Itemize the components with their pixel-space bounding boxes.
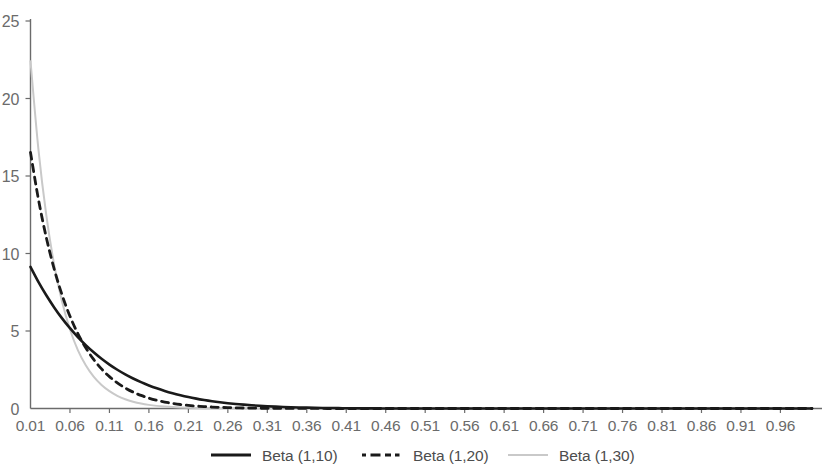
beta-distribution-chart: 0510152025 0.010.060.110.160.210.260.310… [0, 0, 824, 467]
y-axis-tick-label: 20 [2, 91, 20, 108]
legend-label-3: Beta (1,30) [559, 447, 635, 464]
series-line-beta-1-10 [31, 267, 813, 409]
chart-legend: Beta (1,10)Beta (1,20)Beta (1,30) [211, 447, 635, 464]
y-axis-tick-label: 15 [2, 168, 20, 185]
chart-canvas: 0510152025 0.010.060.110.160.210.260.310… [0, 0, 824, 467]
legend-label-2: Beta (1,20) [413, 447, 489, 464]
axis-ticks [26, 21, 781, 413]
x-axis-tick-labels: 0.010.060.110.160.210.260.310.360.410.46… [16, 417, 795, 434]
series-line-beta-1-20 [31, 152, 813, 408]
x-axis-tick-label: 0.66 [529, 417, 558, 434]
y-axis-tick-label: 0 [11, 401, 20, 418]
y-axis-tick-label: 5 [11, 323, 20, 340]
axes [31, 19, 823, 409]
x-axis-tick-label: 0.21 [174, 417, 203, 434]
legend-label-1: Beta (1,10) [262, 447, 338, 464]
x-axis-tick-label: 0.11 [95, 417, 123, 434]
x-axis-tick-label: 0.71 [568, 417, 597, 434]
x-axis-tick-label: 0.96 [766, 417, 795, 434]
y-axis-tick-label: 10 [2, 246, 20, 263]
y-axis-tick-labels: 0510152025 [2, 13, 20, 418]
series-line-beta-1-30 [31, 61, 813, 408]
x-axis-tick-label: 0.86 [687, 417, 716, 434]
x-axis-tick-label: 0.36 [292, 417, 321, 434]
x-axis-tick-label: 0.06 [55, 417, 84, 434]
x-axis-tick-label: 0.56 [450, 417, 479, 434]
y-axis-tick-label: 25 [2, 13, 20, 30]
x-axis-tick-label: 0.31 [253, 417, 282, 434]
data-series [31, 61, 813, 408]
x-axis-tick-label: 0.61 [489, 417, 518, 434]
x-axis-tick-label: 0.51 [411, 417, 440, 434]
x-axis-tick-label: 0.01 [16, 417, 45, 434]
x-axis-tick-label: 0.16 [134, 417, 163, 434]
x-axis-tick-label: 0.26 [213, 417, 242, 434]
x-axis-tick-label: 0.81 [647, 417, 676, 434]
x-axis-tick-label: 0.76 [608, 417, 637, 434]
x-axis-tick-label: 0.41 [332, 417, 361, 434]
x-axis-tick-label: 0.91 [726, 417, 755, 434]
x-axis-tick-label: 0.46 [371, 417, 400, 434]
